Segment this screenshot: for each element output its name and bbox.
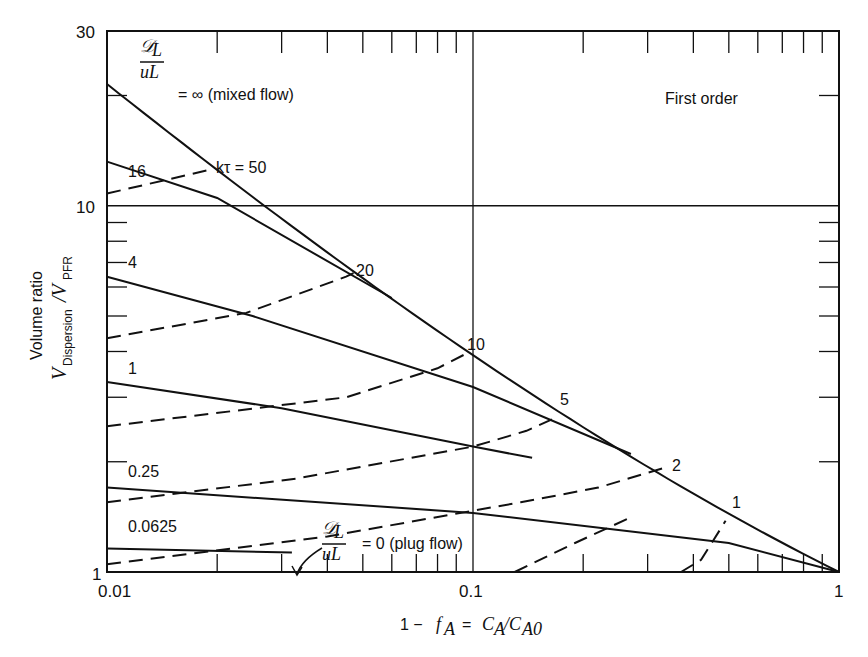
svg-text:Volume ratio: Volume ratio [28,271,45,360]
svg-text:uL: uL [322,544,341,564]
curve-k-50 [107,169,213,194]
x-tick-1: 1 [834,582,843,601]
curve-16 [107,162,392,298]
curve-20 [107,272,356,338]
y-tick-10: 10 [76,198,95,217]
x-tick-01: 0.1 [459,582,483,601]
y-tick-30: 30 [76,23,95,42]
svg-text:PFR: PFR [61,256,75,280]
d16-label: 16 [128,163,146,180]
curve-5 [107,417,557,502]
svg-text:L: L [333,522,344,542]
svg-text:f: f [436,614,444,634]
d025-label: 0.25 [128,463,159,480]
first-order-label: First order [665,90,739,107]
svg-text:V: V [48,365,70,380]
svg-text:= ∞ (mixed flow): = ∞ (mixed flow) [178,86,294,103]
svg-text:A0: A0 [521,619,542,639]
k5-label: 5 [560,391,569,408]
k10-label: 10 [467,336,485,353]
svg-text:1 −: 1 − [400,616,423,633]
curve-4 [107,277,631,454]
svg-text:L: L [151,40,162,60]
d4-label: 4 [128,254,137,271]
d1-label: 1 [128,360,137,377]
k1-label: 1 [732,494,741,511]
d00625-label: 0.0625 [128,518,177,535]
ktau-50-label: kτ = 50 [216,159,266,176]
gridlines [107,31,839,572]
svg-text:A: A [443,619,456,639]
svg-text:Dispersion: Dispersion [61,309,75,366]
k2-label: 2 [672,457,681,474]
x-axis-label: 1 − f A = C A /C A0 [400,614,542,639]
svg-text:=: = [462,616,471,633]
svg-text:= 0 (plug flow): = 0 (plug flow) [362,535,463,552]
curve-1 [681,521,726,572]
svg-text:/C: /C [503,614,522,634]
svg-text:/V: /V [48,281,70,303]
k20-label: 20 [356,262,374,279]
y-axis-label: Volume ratio V Dispersion /V PFR [28,256,75,380]
volume-ratio-chart: 30 10 1 0.01 0.1 1 Volume ratio V Disper… [0,0,868,657]
x-tick-001: 0.01 [98,582,131,601]
svg-text:uL: uL [140,62,159,82]
